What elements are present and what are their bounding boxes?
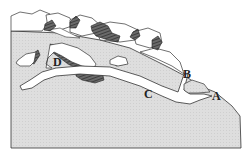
block-a [184, 80, 210, 93]
label-d: D [53, 56, 62, 68]
label-a: A [212, 90, 221, 102]
diagram-canvas [0, 0, 251, 157]
cave-cross-section-diagram: A B C D [0, 0, 251, 157]
label-c: C [144, 88, 153, 100]
label-b: B [183, 68, 191, 80]
